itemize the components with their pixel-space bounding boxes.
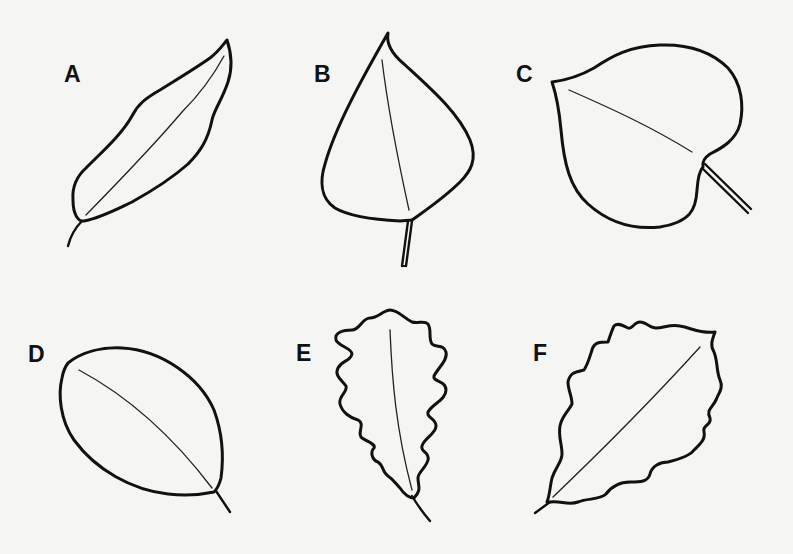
leaf-b-drawing <box>322 33 473 266</box>
leaf-e-drawing <box>336 310 447 521</box>
leaf-label-e: E <box>296 342 311 365</box>
leaf-shapes-figure: A B C D E F <box>0 0 793 554</box>
leaf-a-drawing <box>68 40 231 246</box>
leaf-drawings <box>0 0 793 554</box>
leaf-label-a: A <box>64 63 81 86</box>
leaf-f-drawing <box>535 322 721 513</box>
leaf-label-b: B <box>314 63 331 86</box>
leaf-d-drawing <box>60 348 230 512</box>
leaf-c-drawing <box>552 45 751 228</box>
leaf-label-c: C <box>516 63 533 86</box>
leaf-label-f: F <box>533 342 547 365</box>
leaf-label-d: D <box>28 343 45 366</box>
